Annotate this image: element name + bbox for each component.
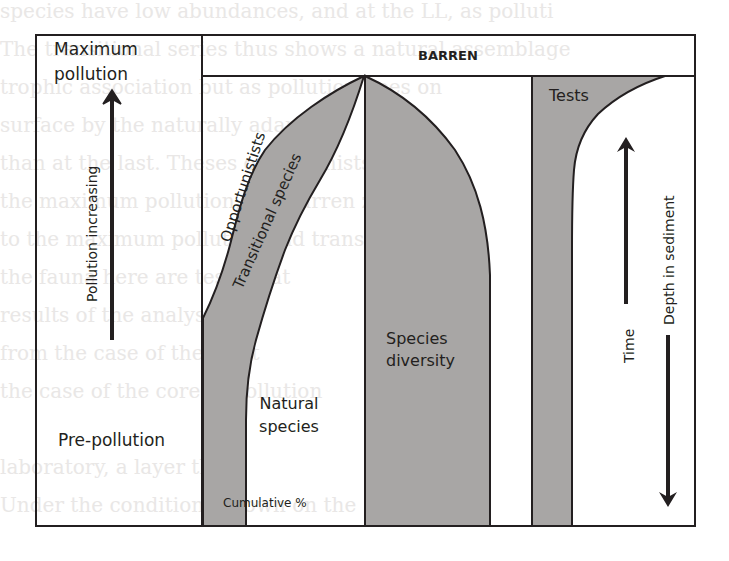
pollution-succession-diagram: species have low abundances, and at the …: [0, 0, 729, 561]
cumulative-percent-label: Cumulative %: [223, 496, 307, 510]
depth-arrow: [659, 335, 677, 507]
natural-species-label-2: species: [259, 417, 319, 436]
time-arrow: [617, 137, 635, 304]
maximum-pollution-label: Maximum: [54, 39, 138, 59]
depth-in-sediment-label: Depth in sediment: [661, 195, 677, 325]
bleed-through-line: laboratory, a layer that: [0, 455, 232, 479]
species-diversity-label: Species: [386, 329, 448, 348]
species-diversity-label-2: diversity: [386, 351, 455, 370]
maximum-pollution-label-2: pollution: [54, 64, 128, 84]
time-label: Time: [621, 329, 637, 364]
pollution-increasing-label: Pollution increasing: [84, 166, 100, 302]
bleed-through-line: the maximum pollution, the barren zone: [0, 189, 409, 213]
opportunists-transitional-region: [203, 76, 364, 526]
tests-label: Tests: [548, 86, 589, 105]
pre-pollution-label: Pre-pollution: [58, 430, 165, 450]
species-diversity-region: [365, 76, 490, 526]
bleed-through-line: to the maximum pollution and transitiona…: [0, 227, 428, 251]
natural-species-label: Natural: [259, 394, 318, 413]
barren-label: BARREN: [418, 48, 478, 63]
bleed-through-line: species have low abundances, and at the …: [0, 0, 553, 23]
tests-region: [532, 76, 665, 526]
